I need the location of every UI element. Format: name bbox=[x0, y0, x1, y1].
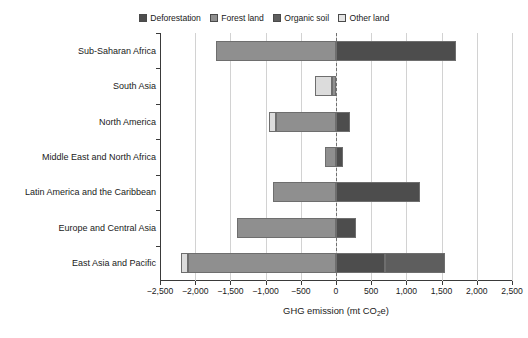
x-tick-mark bbox=[371, 281, 372, 285]
y-tick-mark bbox=[156, 246, 160, 247]
x-tick-mark bbox=[195, 281, 196, 285]
plot-area bbox=[160, 33, 512, 281]
y-axis-label: North America bbox=[99, 117, 156, 127]
x-axis-tick-label: −1,000 bbox=[252, 286, 279, 297]
x-axis-tick-label: 1,000 bbox=[396, 286, 418, 297]
y-axis-label: South Asia bbox=[113, 81, 156, 91]
bar-segment[interactable] bbox=[325, 147, 336, 167]
gridline bbox=[512, 33, 513, 281]
bar-segment[interactable] bbox=[315, 76, 332, 96]
x-axis-title-subscript: 2 bbox=[377, 310, 381, 317]
legend-swatch-icon bbox=[210, 14, 218, 22]
bar-segment[interactable] bbox=[273, 182, 336, 202]
bar-group[interactable] bbox=[160, 182, 512, 202]
x-tick-mark bbox=[512, 281, 513, 285]
y-tick-mark bbox=[156, 33, 160, 34]
x-axis-tick-label: 500 bbox=[364, 286, 378, 297]
y-axis-label: Middle East and North Africa bbox=[42, 152, 156, 162]
bar-group[interactable] bbox=[160, 76, 512, 96]
bar-segment[interactable] bbox=[336, 112, 350, 132]
x-axis-tick-label: 0 bbox=[334, 286, 339, 297]
bar-segment[interactable] bbox=[181, 253, 188, 273]
y-axis-label: Sub-Saharan Africa bbox=[78, 46, 156, 56]
bar-segment[interactable] bbox=[276, 112, 336, 132]
legend-entry[interactable]: Other land bbox=[338, 13, 389, 23]
x-axis-title-pre: GHG emission (mt CO bbox=[283, 305, 377, 316]
x-axis-tick-label: −2,500 bbox=[147, 286, 174, 297]
bar-segment[interactable] bbox=[336, 182, 420, 202]
y-axis-label: East Asia and Pacific bbox=[72, 258, 156, 268]
legend-swatch-icon bbox=[273, 14, 281, 22]
bar-segment[interactable] bbox=[269, 112, 276, 132]
legend-entry[interactable]: Deforestation bbox=[139, 13, 201, 23]
x-tick-mark bbox=[301, 281, 302, 285]
y-tick-mark bbox=[156, 210, 160, 211]
x-axis-tick-label: 2,000 bbox=[466, 286, 488, 297]
bar-group[interactable] bbox=[160, 147, 512, 167]
x-axis-tick-label: −2,000 bbox=[182, 286, 209, 297]
bar-segment[interactable] bbox=[336, 147, 343, 167]
x-axis-tick-label: 1,500 bbox=[431, 286, 453, 297]
bar-segment[interactable] bbox=[216, 41, 336, 61]
x-tick-mark bbox=[477, 281, 478, 285]
bar-segment[interactable] bbox=[332, 76, 336, 96]
bar-segment[interactable] bbox=[188, 253, 336, 273]
legend-swatch-icon bbox=[338, 14, 346, 22]
bar-segment[interactable] bbox=[336, 41, 456, 61]
y-axis-label: Europe and Central Asia bbox=[58, 223, 156, 233]
bar-group[interactable] bbox=[160, 112, 512, 132]
x-tick-mark bbox=[406, 281, 407, 285]
legend-swatch-icon bbox=[139, 14, 147, 22]
x-tick-mark bbox=[442, 281, 443, 285]
legend-label: Deforestation bbox=[150, 13, 200, 23]
bar-group[interactable] bbox=[160, 41, 512, 61]
legend-label: Other land bbox=[350, 13, 390, 23]
bar-segment[interactable] bbox=[237, 218, 336, 238]
x-tick-mark bbox=[266, 281, 267, 285]
legend-entry[interactable]: Organic soil bbox=[273, 13, 329, 23]
bar-segment[interactable] bbox=[336, 218, 356, 238]
x-axis-tick-label: −1,500 bbox=[217, 286, 244, 297]
x-axis-title: GHG emission (mt CO2e) bbox=[160, 305, 512, 318]
x-tick-mark bbox=[160, 281, 161, 285]
bar-group[interactable] bbox=[160, 218, 512, 238]
bar-segment[interactable] bbox=[385, 253, 445, 273]
x-tick-mark bbox=[336, 281, 337, 285]
legend-entry[interactable]: Forest land bbox=[210, 13, 264, 23]
x-axis-tick-label: 2,500 bbox=[501, 286, 523, 297]
y-axis-label: Latin America and the Caribbean bbox=[25, 187, 156, 197]
y-tick-mark bbox=[156, 175, 160, 176]
chart-legend: DeforestationForest landOrganic soilOthe… bbox=[0, 13, 528, 23]
chart-figure: DeforestationForest landOrganic soilOthe… bbox=[0, 0, 528, 338]
y-tick-mark bbox=[156, 139, 160, 140]
x-axis-tick-labels: −2,500−2,000−1,500−1,000−50005001,0001,5… bbox=[160, 286, 512, 300]
legend-label: Forest land bbox=[221, 13, 263, 23]
x-axis-tick-label: −500 bbox=[291, 286, 310, 297]
x-axis-title-post: e) bbox=[381, 305, 389, 316]
y-tick-mark bbox=[156, 104, 160, 105]
y-tick-mark bbox=[156, 68, 160, 69]
legend-label: Organic soil bbox=[284, 13, 329, 23]
bar-group[interactable] bbox=[160, 253, 512, 273]
bar-segment[interactable] bbox=[336, 253, 385, 273]
x-tick-mark bbox=[230, 281, 231, 285]
